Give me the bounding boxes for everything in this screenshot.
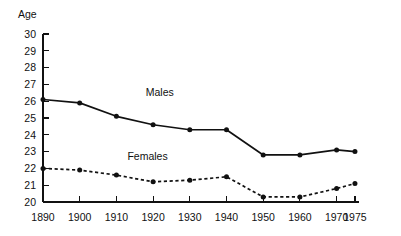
- x-tick-label: 1975: [343, 211, 367, 223]
- x-tick-label: 1910: [105, 211, 129, 223]
- series-annotation-females: Females: [127, 150, 167, 162]
- y-tick-label: 26: [24, 95, 36, 107]
- x-tick-label: 1960: [288, 211, 312, 223]
- y-axis-title: Age: [18, 8, 37, 20]
- data-point-females: [77, 168, 82, 173]
- data-point-males: [334, 147, 339, 152]
- data-point-females: [297, 194, 302, 199]
- y-tick-label: 30: [24, 28, 36, 40]
- data-point-males: [297, 152, 302, 157]
- x-tick-label: 1940: [215, 211, 239, 223]
- y-tick-label: 28: [24, 61, 36, 73]
- y-tick-label: 24: [24, 129, 36, 141]
- y-tick-label: 27: [24, 78, 36, 90]
- series-lines: [43, 100, 355, 197]
- x-tick-label: 1920: [141, 211, 165, 223]
- x-tick-label: 1900: [68, 211, 92, 223]
- y-tick-label: 23: [24, 145, 36, 157]
- data-point-females: [352, 181, 357, 186]
- axis-tick-marks: [43, 34, 355, 202]
- axis-lines: [43, 34, 359, 202]
- y-tick-label: 29: [24, 45, 36, 57]
- x-axis-tick-labels: 1890190019101920193019401950196019701975: [31, 211, 366, 223]
- line-chart: Age 2021222324252627282930 1890190019101…: [0, 0, 401, 236]
- data-point-females: [151, 179, 156, 184]
- y-axis-tick-labels: 2021222324252627282930: [24, 28, 36, 208]
- series-line-females: [43, 168, 355, 197]
- data-point-females: [261, 194, 266, 199]
- data-point-females: [114, 173, 119, 178]
- chart-canvas: Age 2021222324252627282930 1890190019101…: [0, 0, 401, 236]
- x-tick-label: 1890: [31, 211, 55, 223]
- data-point-males: [187, 127, 192, 132]
- data-point-males: [114, 114, 119, 119]
- series-annotation-males: Males: [146, 86, 174, 98]
- data-point-males: [41, 97, 46, 102]
- y-tick-label: 21: [24, 179, 36, 191]
- y-axis-title-label: Age: [18, 8, 37, 20]
- x-tick-label: 1930: [178, 211, 202, 223]
- data-point-males: [224, 127, 229, 132]
- series-line-males: [43, 100, 355, 155]
- data-point-females: [187, 178, 192, 183]
- data-point-females: [334, 186, 339, 191]
- data-point-males: [151, 122, 156, 127]
- y-tick-label: 25: [24, 112, 36, 124]
- series-markers: [41, 97, 358, 199]
- x-tick-label: 1950: [252, 211, 276, 223]
- y-tick-label: 22: [24, 162, 36, 174]
- data-point-males: [261, 152, 266, 157]
- data-point-females: [41, 166, 46, 171]
- data-point-males: [352, 149, 357, 154]
- data-point-females: [224, 174, 229, 179]
- y-tick-label: 20: [24, 196, 36, 208]
- data-point-males: [77, 100, 82, 105]
